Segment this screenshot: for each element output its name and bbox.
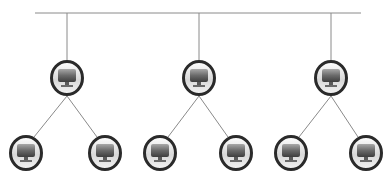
computer-icon [184,62,215,95]
computer-icon [11,137,42,170]
branch-line [299,96,331,137]
computer-icon [351,137,382,170]
computer-icon [221,137,252,170]
branch-line [168,96,199,137]
computer-icon [316,62,347,95]
network-tree-diagram [0,0,389,181]
branch-line [199,96,228,137]
branch-line [34,96,67,137]
branch-line [331,96,358,137]
computer-icon [52,62,83,95]
computer-icon [90,137,121,170]
nodes-layer [11,62,382,170]
computer-icon [276,137,307,170]
computer-icon [145,137,176,170]
branch-line [67,96,97,137]
